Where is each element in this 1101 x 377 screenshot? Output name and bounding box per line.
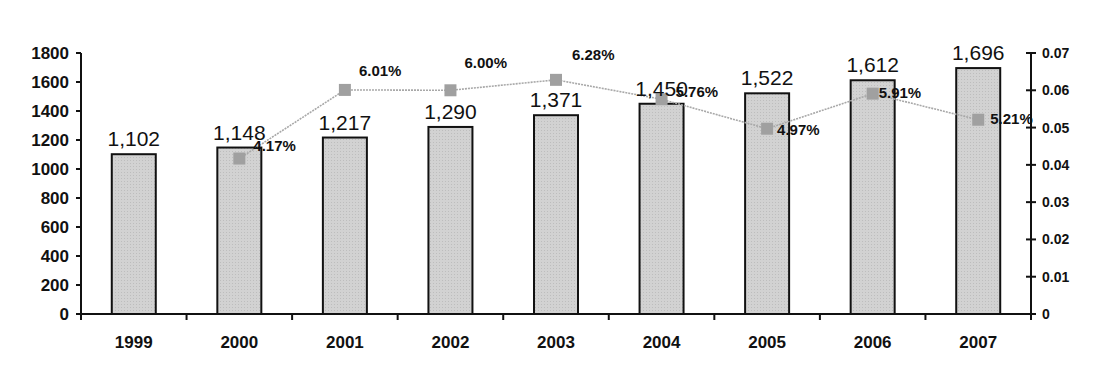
bar-value-label: 1,102	[107, 127, 160, 150]
x-axis-category-label: 1999	[115, 333, 153, 352]
left-axis-tick-label: 800	[41, 189, 69, 208]
growth-value-label: 5.76%	[676, 83, 719, 100]
growth-value-label: 5.91%	[879, 84, 922, 101]
left-axis-tick-label: 1200	[31, 131, 69, 150]
growth-marker	[339, 84, 351, 96]
combo-chart: 02004006008001000120014001600180000.010.…	[0, 0, 1101, 377]
bar-2006	[851, 80, 895, 314]
bar-value-label: 1,522	[741, 66, 794, 89]
left-axis-tick-label: 600	[41, 218, 69, 237]
bar-2007	[956, 68, 1000, 314]
growth-value-label: 6.00%	[464, 54, 507, 71]
growth-marker	[444, 84, 456, 96]
x-axis-category-label: 2001	[326, 333, 364, 352]
bar-value-label: 1,371	[530, 88, 583, 111]
left-axis-tick-label: 1000	[31, 160, 69, 179]
growth-value-label: 6.01%	[359, 62, 402, 79]
growth-value-label: 6.28%	[572, 46, 615, 63]
x-axis-category-label: 2002	[432, 333, 470, 352]
right-axis-tick-label: 0	[1042, 306, 1050, 322]
growth-marker	[867, 88, 879, 100]
growth-marker	[761, 123, 773, 135]
growth-value-label: 5.21%	[990, 110, 1033, 127]
growth-value-label: 4.97%	[777, 121, 820, 138]
left-axis-tick-label: 1800	[31, 44, 69, 63]
left-axis-tick-label: 200	[41, 276, 69, 295]
growth-marker	[550, 74, 562, 86]
bar-value-label: 1,290	[424, 100, 477, 123]
growth-marker	[233, 153, 245, 165]
x-axis-category-label: 2000	[220, 333, 258, 352]
growth-marker	[972, 114, 984, 126]
bar-value-label: 1,612	[846, 53, 899, 76]
left-axis-tick-label: 0	[60, 305, 69, 324]
right-axis-tick-label: 0.04	[1042, 157, 1069, 173]
growth-value-label: 4.17%	[253, 137, 296, 154]
left-axis-tick-label: 1600	[31, 73, 69, 92]
right-axis-tick-label: 0.06	[1042, 82, 1069, 98]
x-axis-category-label: 2006	[854, 333, 892, 352]
right-axis-tick-label: 0.01	[1042, 269, 1069, 285]
left-axis-tick-label: 1400	[31, 102, 69, 121]
bar-1999	[112, 154, 156, 314]
x-axis-category-label: 2007	[959, 333, 997, 352]
x-axis-category-label: 2004	[643, 333, 681, 352]
x-axis-category-label: 2003	[537, 333, 575, 352]
bar-value-label: 1,696	[952, 41, 1005, 64]
bar-2001	[323, 138, 367, 314]
right-axis-tick-label: 0.02	[1042, 231, 1069, 247]
bar-2000	[217, 148, 261, 314]
right-axis-tick-label: 0.05	[1042, 120, 1069, 136]
bar-2003	[534, 115, 578, 314]
left-axis-tick-label: 400	[41, 247, 69, 266]
bar-value-label: 1,217	[319, 111, 372, 134]
right-axis-tick-label: 0.03	[1042, 194, 1069, 210]
bar-2004	[640, 104, 684, 314]
bar-2002	[428, 127, 472, 314]
right-axis-tick-label: 0.07	[1042, 45, 1069, 61]
x-axis-category-label: 2005	[748, 333, 786, 352]
